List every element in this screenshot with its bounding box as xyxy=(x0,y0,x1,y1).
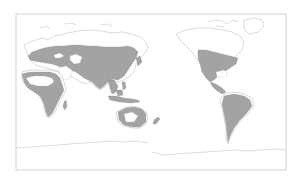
madagascar xyxy=(63,100,67,110)
antarctica xyxy=(16,141,286,155)
range-japan xyxy=(136,56,142,66)
range-borneo xyxy=(116,90,123,96)
arctic-islands-eurasia xyxy=(40,23,112,28)
range-new-zealand xyxy=(153,117,160,124)
south-america xyxy=(220,92,254,144)
range-philippines xyxy=(122,82,126,90)
oceania xyxy=(116,106,160,128)
north-america xyxy=(176,18,264,94)
greenland xyxy=(244,18,264,34)
world-distribution-map xyxy=(0,0,301,182)
range-indonesia xyxy=(108,96,140,103)
africa xyxy=(22,70,67,118)
range-central-america xyxy=(210,82,226,94)
arctic-archipelago xyxy=(208,20,238,27)
